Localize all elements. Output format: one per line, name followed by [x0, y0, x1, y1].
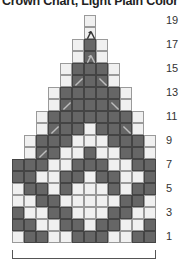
chart-cell [120, 207, 132, 219]
chart-cell [60, 63, 72, 75]
chart-cell [60, 111, 72, 123]
chart-cell [48, 219, 60, 231]
chart-cell [132, 195, 144, 207]
chart-cell [120, 159, 132, 171]
chart-cell [48, 111, 60, 123]
chart-cell [108, 111, 120, 123]
chart-cell [96, 123, 108, 135]
chart-cell [108, 159, 120, 171]
chart-cell [108, 219, 120, 231]
chart-cell [144, 195, 156, 207]
chart-cell [36, 207, 48, 219]
chart-cell [108, 63, 120, 75]
chart-cell [72, 51, 84, 63]
chart-cell [96, 195, 108, 207]
chart-cell [96, 99, 108, 111]
chart-cell [24, 183, 36, 195]
chart-cell [72, 183, 84, 195]
decrease-left-icon [108, 99, 120, 111]
chart-cell [144, 219, 156, 231]
chart-cell [84, 195, 96, 207]
chart-cell [24, 207, 36, 219]
row-number-label: 15 [166, 62, 186, 74]
chart-cell [36, 183, 48, 195]
chart-cell [48, 147, 60, 159]
chart-cell [48, 159, 60, 171]
chart-cell [96, 231, 108, 243]
chart-cell [108, 183, 120, 195]
chart-cell [96, 51, 108, 63]
decrease-right-icon [48, 123, 60, 135]
knitting-chart-grid: 191715131197531 [0, 0, 188, 250]
chart-cell [108, 87, 120, 99]
chart-cell [72, 195, 84, 207]
chart-cell [84, 207, 96, 219]
chart-cell [108, 195, 120, 207]
row-number-label: 11 [166, 110, 186, 122]
chart-cell [84, 231, 96, 243]
chart-cell [48, 99, 60, 111]
chart-cell [144, 147, 156, 159]
chart-cell [48, 183, 60, 195]
chart-cell [144, 183, 156, 195]
chart-cell [144, 207, 156, 219]
chart-cell [36, 219, 48, 231]
chart-cell [36, 123, 48, 135]
chart-cell [72, 87, 84, 99]
chart-cell [84, 159, 96, 171]
chart-cell [60, 231, 72, 243]
chart-cell [84, 219, 96, 231]
chart-cell [60, 123, 72, 135]
chart-cell [36, 111, 48, 123]
chart-cell [84, 147, 96, 159]
chart-cell [132, 147, 144, 159]
chart-cell [60, 135, 72, 147]
chart-cell [120, 135, 132, 147]
chart-cell [84, 99, 96, 111]
row-number-label: 17 [166, 38, 186, 50]
chart-cell [84, 135, 96, 147]
chart-cell [72, 63, 84, 75]
chart-cell [96, 219, 108, 231]
chart-cell [108, 123, 120, 135]
row-number-label: 13 [166, 86, 186, 98]
chart-cell [72, 159, 84, 171]
chart-cell [48, 207, 60, 219]
row-number-label: 7 [166, 158, 186, 170]
row-number-label: 19 [166, 14, 186, 26]
row-number-label: 3 [166, 206, 186, 218]
chart-cell [96, 171, 108, 183]
chart-cell [84, 183, 96, 195]
row-number-label: 5 [166, 182, 186, 194]
chart-cell [72, 123, 84, 135]
chart-cell [60, 87, 72, 99]
chart-cell [120, 183, 132, 195]
chart-cell [72, 111, 84, 123]
chart-cell [72, 219, 84, 231]
chart-cell [60, 147, 72, 159]
chart-cell [60, 207, 72, 219]
chart-cell [72, 207, 84, 219]
chart-cell [96, 207, 108, 219]
chart-cell [84, 111, 96, 123]
chart-cell [12, 207, 24, 219]
chart-cell [72, 147, 84, 159]
chart-cell [132, 159, 144, 171]
chart-cell [36, 195, 48, 207]
chart-cell [24, 159, 36, 171]
chart-cell [132, 183, 144, 195]
chart-cell [60, 195, 72, 207]
double-decrease-icon [84, 27, 96, 39]
chart-cell [120, 111, 132, 123]
chart-cell [144, 135, 156, 147]
chart-cell [84, 15, 96, 27]
chart-cell [120, 195, 132, 207]
chart-cell [84, 63, 96, 75]
double-decrease-icon [84, 51, 96, 63]
chart-cell [132, 111, 144, 123]
chart-cell [96, 147, 108, 159]
chart-cell [132, 207, 144, 219]
chart-cell [144, 159, 156, 171]
chart-cell [12, 171, 24, 183]
chart-cell [48, 231, 60, 243]
